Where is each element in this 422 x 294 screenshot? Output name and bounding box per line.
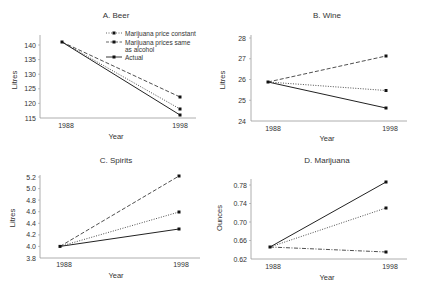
x-tick-label: 1988 xyxy=(265,125,281,132)
panel-title: C. Spirits xyxy=(100,156,132,165)
y-tick-label: 26 xyxy=(238,76,246,83)
series-same-as-alcohol xyxy=(268,56,386,82)
panel-title: D. Marijuana xyxy=(304,156,350,165)
legend: Marijuana price constant Marijuana price… xyxy=(106,30,196,61)
x-axis-label: Year xyxy=(108,271,124,280)
y-tick-label: 115 xyxy=(25,115,36,122)
series-same-as-alcohol xyxy=(62,42,180,97)
y-tick-label: 4.4 xyxy=(26,220,36,227)
x-axis-label: Year xyxy=(108,132,124,141)
y-tick-label: 125 xyxy=(24,85,36,92)
series-price-constant xyxy=(60,212,179,246)
x-axis-label: Year xyxy=(319,134,335,143)
y-tick-label: 0.62 xyxy=(233,256,247,263)
y-tick-label: 5.0 xyxy=(26,185,36,192)
y-tick-label: 4.6 xyxy=(26,208,36,215)
x-tick-label: 1998 xyxy=(382,263,398,270)
y-axis-label: Litres xyxy=(10,71,19,90)
y-tick-label: 0.70 xyxy=(233,219,247,226)
x-axis-label: Year xyxy=(319,273,335,282)
y-tick-label: 27 xyxy=(238,55,246,62)
y-tick-label: 4.0 xyxy=(26,243,36,250)
panel-title: A. Beer xyxy=(103,11,130,20)
series-same-as-alcohol xyxy=(270,247,386,252)
series-price-constant xyxy=(270,208,386,247)
y-ticks: 28 27 26 25 24 xyxy=(238,35,251,125)
series-actual xyxy=(268,82,386,108)
x-tick-label: 1988 xyxy=(265,263,281,270)
panel-spirits: C. Spirits 5.2 5.0 4.8 4.6 4.4 4.2 4.0 3… xyxy=(8,156,200,280)
y-tick-label: 120 xyxy=(24,100,36,107)
y-tick-label: 135 xyxy=(24,56,36,63)
series-same-as-alcohol xyxy=(60,176,179,246)
y-axis-label: Litres xyxy=(8,209,17,228)
y-ticks: 0.78 0.74 0.70 0.66 0.62 xyxy=(233,182,251,263)
series-actual xyxy=(62,42,180,115)
y-axis-label: Ounces xyxy=(215,205,224,231)
y-tick-label: 130 xyxy=(24,71,36,78)
legend-label-actual: Actual xyxy=(125,54,144,61)
y-tick-label: 0.74 xyxy=(233,200,247,207)
x-tick-label: 1988 xyxy=(58,122,74,129)
y-tick-label: 24 xyxy=(238,118,246,125)
y-ticks: 5.2 5.0 4.8 4.6 4.4 4.2 4.0 3.8 xyxy=(26,174,40,262)
x-tick-label: 1998 xyxy=(382,125,398,132)
series-price-constant xyxy=(62,42,180,109)
panel-beer: A. Beer 140 135 130 125 120 115 1988 199… xyxy=(10,11,196,141)
figure: A. Beer 140 135 130 125 120 115 1988 199… xyxy=(0,0,422,294)
y-tick-label: 28 xyxy=(238,35,246,42)
legend-label-same-cont: as alcohol xyxy=(125,46,155,53)
x-tick-label: 1998 xyxy=(172,122,188,129)
y-tick-label: 140 xyxy=(24,42,36,49)
y-tick-label: 5.2 xyxy=(26,174,36,181)
y-tick-label: 25 xyxy=(238,97,246,104)
y-ticks: 140 135 130 125 120 115 xyxy=(24,42,40,122)
legend-label-constant: Marijuana price constant xyxy=(125,30,196,38)
x-tick-label: 1998 xyxy=(173,261,189,268)
panel-title: B. Wine xyxy=(313,11,342,20)
panel-wine: B. Wine 28 27 26 25 24 1988 1998 Year Li… xyxy=(218,11,407,143)
y-tick-label: 3.8 xyxy=(26,255,36,262)
y-tick-label: 0.78 xyxy=(233,182,247,189)
series-actual xyxy=(60,229,179,246)
data-markers xyxy=(267,55,388,110)
series-actual xyxy=(270,182,386,247)
y-tick-label: 0.66 xyxy=(233,237,247,244)
y-tick-label: 4.8 xyxy=(26,197,36,204)
x-tick-label: 1988 xyxy=(56,261,72,268)
y-axis-label: Litres xyxy=(218,71,227,90)
y-tick-label: 4.2 xyxy=(26,231,36,238)
panel-marijuana: D. Marijuana 0.78 0.74 0.70 0.66 0.62 19… xyxy=(215,156,407,282)
